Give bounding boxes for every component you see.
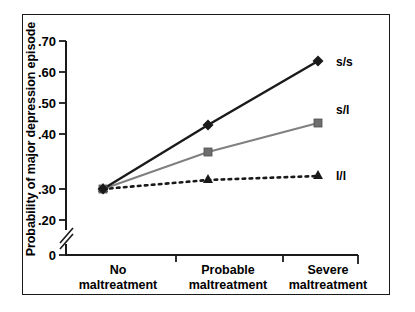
series-label-sl: s/l [336, 103, 349, 117]
y-tick-label-0: 0 [49, 248, 56, 263]
x-cat-1-line-1: maltreatment [189, 278, 268, 292]
x-cat-0-line-0: No [110, 263, 127, 277]
y-axis-ticks [59, 41, 66, 255]
series-markers-ll [98, 170, 323, 192]
figure-container: Probability of major depression episode … [0, 0, 415, 312]
y-tick-label-70: .70 [38, 34, 56, 49]
y-tick-label-20: .20 [38, 213, 56, 228]
series-label-ss: s/s [336, 55, 353, 69]
y-tick-label-60: .60 [38, 65, 56, 80]
x-cat-2-line-1: maltreatment [289, 278, 368, 292]
x-cat-2-line-0: Severe [307, 263, 348, 277]
series-label-ll: l/l [336, 169, 346, 183]
x-cat-0-line-1: maltreatment [79, 278, 158, 292]
x-category-label-no-maltreatment: No maltreatment [79, 263, 158, 292]
y-tick-label-30: .30 [38, 182, 56, 197]
x-category-label-severe-maltreatment: Severe maltreatment [289, 263, 368, 292]
x-cat-1-line-0: Probable [201, 263, 255, 277]
chart-plot: .70 .60 .50 .40 .30 .20 0 [0, 0, 415, 312]
x-category-label-probable-maltreatment: Probable maltreatment [189, 263, 268, 292]
y-tick-label-50: .50 [38, 96, 56, 111]
y-tick-label-40: .40 [38, 127, 56, 142]
